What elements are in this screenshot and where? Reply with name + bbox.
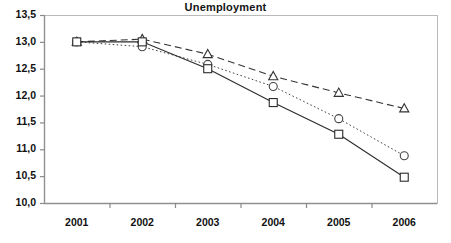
chart-root: Unemployment 13,513,012,512,011,511,010,… — [0, 0, 451, 243]
x-axis-tick-label: 2005 — [311, 216, 367, 228]
y-axis-tick-label: 11,0 — [2, 142, 36, 154]
y-axis-tick-label: 13,5 — [2, 8, 36, 20]
data-point-square — [73, 38, 81, 46]
x-axis-tick-label: 2003 — [180, 216, 236, 228]
marker-circle — [335, 115, 343, 123]
plot-area — [0, 0, 451, 243]
plot-frame — [45, 16, 438, 204]
marker-square — [269, 99, 277, 107]
data-point-triangle — [203, 49, 212, 57]
data-point-square — [138, 38, 146, 46]
y-axis-tick-label: 10,5 — [2, 169, 36, 181]
x-axis-tick-label: 2006 — [376, 216, 432, 228]
y-axis-tick-label: 13,0 — [2, 35, 36, 47]
marker-square — [138, 38, 146, 46]
y-axis-tick-label: 11,5 — [2, 115, 36, 127]
data-point-square — [269, 99, 277, 107]
y-axis-tick-label: 10,0 — [2, 196, 36, 208]
y-axis-tick-label: 12,5 — [2, 62, 36, 74]
series-line-square — [77, 42, 405, 177]
series-line-triangle — [77, 39, 405, 108]
x-axis-tick-label: 2002 — [114, 216, 170, 228]
data-point-circle — [335, 115, 343, 123]
y-axis-tick-label: 12,0 — [2, 89, 36, 101]
marker-circle — [400, 152, 408, 160]
marker-square — [73, 38, 81, 46]
data-point-square — [400, 173, 408, 181]
marker-square — [400, 173, 408, 181]
marker-triangle — [203, 49, 212, 57]
x-axis-tick-label: 2001 — [49, 216, 105, 228]
marker-square — [335, 130, 343, 138]
series-line-circle — [77, 42, 405, 156]
x-axis-tick-label: 2004 — [245, 216, 301, 228]
data-point-circle — [400, 152, 408, 160]
data-point-circle — [269, 82, 277, 90]
marker-circle — [269, 82, 277, 90]
data-point-square — [204, 65, 212, 73]
marker-square — [204, 65, 212, 73]
data-point-square — [335, 130, 343, 138]
